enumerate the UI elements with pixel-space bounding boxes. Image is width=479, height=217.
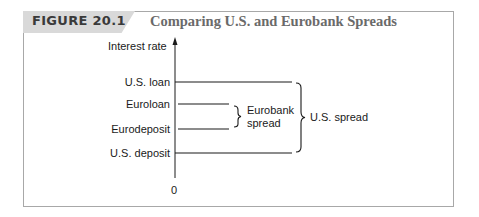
eurobank-spread-label-line2: spread [247, 117, 281, 129]
y-axis-label: Interest rate [108, 40, 167, 52]
origin-label: 0 [171, 184, 177, 196]
level-label-eurodeposit: Eurodeposit [80, 123, 170, 135]
level-label-us-loan: U.S. loan [90, 76, 170, 88]
level-label-us-deposit: U.S. deposit [80, 147, 170, 159]
axis-arrow-icon [173, 37, 178, 45]
us-spread-label: U.S. spread [310, 111, 368, 123]
eurobank-spread-label-line1: Eurobank [247, 104, 294, 116]
eurobank-brace-icon [234, 106, 241, 127]
diagram-canvas [0, 0, 479, 217]
level-label-euroloan: Euroloan [90, 98, 170, 110]
us-spread-brace-icon [296, 83, 305, 152]
